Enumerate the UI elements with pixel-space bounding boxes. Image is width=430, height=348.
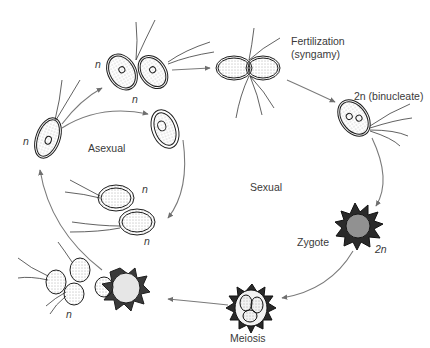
vegetative-cell: [30, 80, 80, 162]
diagram-artwork: [0, 0, 430, 348]
life-cycle-diagram: n n n Asexual Fertilization (syngamy) 2n…: [0, 0, 430, 348]
label-syngamy: (syngamy): [291, 48, 340, 60]
gametes: [100, 20, 214, 95]
meiosis-cyst: [226, 284, 276, 333]
label-n-gamete: n: [95, 58, 101, 70]
label-n-daughter-bottom: n: [144, 235, 150, 247]
label-zygote: Zygote: [297, 236, 329, 248]
label-n-vegetative: n: [23, 135, 29, 147]
label-n-daughter-top: n: [142, 183, 148, 195]
label-n-below-gametes: n: [132, 93, 138, 105]
label-zygote-2n: 2n: [375, 243, 387, 255]
dividing-cell: [146, 106, 184, 152]
label-fertilization: Fertilization: [291, 35, 345, 47]
label-sexual: Sexual: [250, 181, 282, 193]
fertilization-pair: [216, 28, 280, 118]
label-asexual: Asexual: [88, 142, 125, 154]
label-n-released: n: [66, 308, 72, 320]
cycle-arrows: [40, 68, 383, 305]
released-haploid-cells: [18, 242, 150, 314]
label-binucleate: 2n (binucleate): [354, 90, 423, 102]
label-meiosis: Meiosis: [230, 332, 266, 344]
